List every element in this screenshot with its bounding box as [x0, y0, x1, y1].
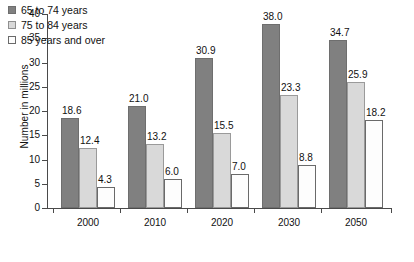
x-axis-tick-label: 2050: [325, 217, 387, 228]
y-axis-tick: [42, 87, 47, 88]
legend-item: 75 to 84 years: [8, 18, 105, 32]
legend-label: 75 to 84 years: [21, 20, 88, 31]
x-axis-tick-label: 2030: [258, 217, 320, 228]
bar-value-label: 38.0: [263, 12, 282, 22]
bar-value-label: 13.2: [147, 132, 166, 142]
bar: [231, 174, 249, 208]
bar-value-label: 7.0: [232, 162, 246, 172]
bar-value-label: 30.9: [196, 46, 215, 56]
bar-value-label: 18.6: [62, 106, 81, 116]
bar-value-label: 4.3: [98, 175, 112, 185]
bar-value-label: 34.7: [330, 28, 349, 38]
bar: [146, 144, 164, 208]
bar: [262, 24, 280, 208]
y-axis-tick-label: 20: [14, 106, 40, 116]
x-axis-separator-tick: [120, 208, 121, 213]
bar-value-label: 25.9: [348, 70, 367, 80]
legend-item: 85 years and over: [8, 33, 105, 47]
bar: [164, 179, 182, 208]
bar: [347, 82, 365, 208]
bar-value-label: 18.2: [366, 108, 385, 118]
bar: [195, 58, 213, 208]
y-axis-tick-label: 5: [14, 179, 40, 189]
x-axis-separator-tick: [187, 208, 188, 213]
bar-value-label: 6.0: [165, 167, 179, 177]
legend-swatch-icon: [8, 21, 16, 29]
y-axis-tick: [42, 135, 47, 136]
x-axis-tick-label: 2020: [191, 217, 253, 228]
y-axis-tick: [42, 111, 47, 112]
bar: [128, 106, 146, 208]
x-axis-separator-tick: [391, 208, 392, 213]
bar: [329, 40, 347, 208]
x-axis-separator-tick: [321, 208, 322, 213]
y-axis-tick: [42, 160, 47, 161]
y-axis-tick-label: 15: [14, 130, 40, 140]
legend-item: 65 to 74 years: [8, 3, 105, 17]
legend-swatch-icon: [8, 6, 16, 14]
legend-swatch-icon: [8, 36, 16, 44]
y-axis-tick-label: 0: [14, 203, 40, 213]
x-axis-separator-tick: [53, 208, 54, 213]
bar: [365, 120, 383, 208]
bar-value-label: 12.4: [80, 136, 99, 146]
legend-label: 65 to 74 years: [21, 5, 88, 16]
x-axis-separator-tick: [254, 208, 255, 213]
legend: 65 to 74 years 75 to 84 years 85 years a…: [8, 3, 105, 48]
bar: [298, 165, 316, 208]
y-axis-tick-label: 30: [14, 58, 40, 68]
x-axis-tick-label: 2010: [124, 217, 186, 228]
bar: [213, 133, 231, 208]
bar: [97, 187, 115, 208]
bar-value-label: 8.8: [299, 153, 313, 163]
bar: [79, 148, 97, 208]
bar-value-label: 23.3: [281, 83, 300, 93]
bar: [61, 118, 79, 208]
x-axis-tick-label: 2000: [57, 217, 119, 228]
bar-value-label: 15.5: [214, 121, 233, 131]
y-axis-tick: [42, 184, 47, 185]
bar-value-label: 21.0: [129, 94, 148, 104]
y-axis-tick: [42, 63, 47, 64]
x-axis-line: [47, 208, 391, 209]
y-axis-tick-label: 10: [14, 155, 40, 165]
y-axis-tick: [42, 208, 47, 209]
legend-label: 85 years and over: [21, 35, 105, 46]
y-axis-tick-label: 25: [14, 82, 40, 92]
bar-chart: Number in millions 0510152025303540 18.6…: [0, 0, 414, 262]
bar: [280, 95, 298, 208]
